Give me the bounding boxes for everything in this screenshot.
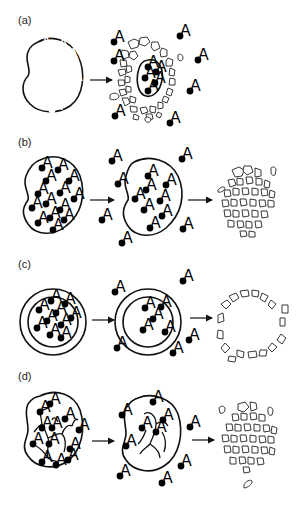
panel-d bbox=[24, 388, 277, 488]
panel-c bbox=[20, 267, 288, 362]
shell-fragments bbox=[217, 290, 288, 362]
panel-b bbox=[23, 145, 276, 246]
fragments bbox=[219, 402, 277, 488]
agent-molecules bbox=[30, 390, 90, 468]
agent-molecules bbox=[29, 154, 85, 233]
fragments bbox=[218, 166, 276, 237]
diagram-canvas: A bbox=[0, 0, 300, 506]
agent-molecules bbox=[123, 388, 174, 449]
panel-a bbox=[23, 22, 209, 126]
agent-molecules bbox=[142, 53, 167, 94]
agent-molecules bbox=[132, 162, 177, 231]
